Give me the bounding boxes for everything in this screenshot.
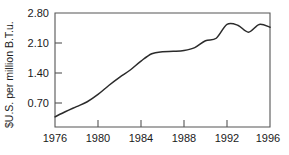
x-tick-label: 1988 [172, 132, 196, 144]
plot-frame [55, 13, 270, 127]
y-axis-tick-labels: 2.80 2.10 1.40 0.70 [28, 7, 49, 109]
x-axis-tick-labels: 1976 1980 1984 1988 1992 1996 [43, 132, 280, 144]
y-tick-label: 2.10 [28, 37, 49, 49]
x-tick-label: 1980 [86, 132, 110, 144]
y-axis-title: $U.S. per million B.T.u. [3, 21, 15, 128]
x-tick-label: 1984 [129, 132, 153, 144]
data-series-line [55, 23, 270, 116]
y-tick-label: 0.70 [28, 97, 49, 109]
y-axis-ticks [55, 43, 62, 103]
y-tick-label: 1.40 [28, 67, 49, 79]
x-tick-label: 1996 [256, 132, 280, 144]
line-chart: $U.S. per million B.T.u. 2.80 2.10 1.40 … [0, 0, 289, 155]
x-tick-label: 1992 [215, 132, 239, 144]
y-tick-label: 2.80 [28, 7, 49, 19]
chart-figure: $U.S. per million B.T.u. 2.80 2.10 1.40 … [0, 0, 289, 155]
x-tick-label: 1976 [43, 132, 67, 144]
x-axis-ticks [98, 120, 227, 127]
